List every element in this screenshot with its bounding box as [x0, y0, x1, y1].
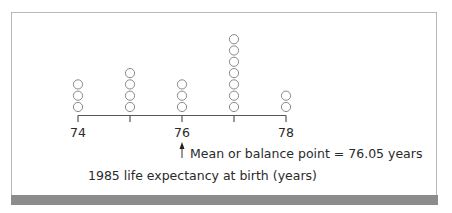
- tick-label-76: 76: [174, 125, 190, 140]
- tick-label-78: 78: [278, 125, 294, 140]
- data-point: [177, 80, 186, 89]
- dot-plot: 74 76 78 Mean or balance point = 76.05 y…: [0, 0, 452, 213]
- data-point: [73, 91, 82, 100]
- data-point: [229, 57, 238, 66]
- data-point: [229, 69, 238, 78]
- data-point: [125, 102, 134, 111]
- mean-arrow-icon: [180, 142, 185, 158]
- data-point: [229, 80, 238, 89]
- data-point: [177, 91, 186, 100]
- data-point: [125, 91, 134, 100]
- data-point: [73, 80, 82, 89]
- data-point: [73, 102, 82, 111]
- data-point: [281, 91, 290, 100]
- x-axis-title: 1985 life expectancy at birth (years): [88, 168, 317, 183]
- data-point: [281, 102, 290, 111]
- data-point: [229, 91, 238, 100]
- mean-annotation: Mean or balance point = 76.05 years: [190, 146, 422, 161]
- data-point: [229, 35, 238, 44]
- dot-stacks: [73, 35, 290, 112]
- data-point: [125, 80, 134, 89]
- data-point: [229, 46, 238, 55]
- data-point: [125, 69, 134, 78]
- x-axis-ticks: [78, 116, 286, 123]
- data-point: [177, 102, 186, 111]
- data-point: [229, 102, 238, 111]
- tick-label-74: 74: [70, 125, 86, 140]
